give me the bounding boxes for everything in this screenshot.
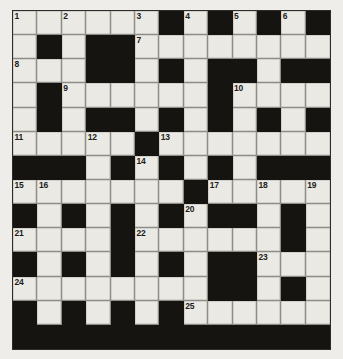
crossword-cell[interactable]: 4	[184, 11, 208, 35]
crossword-cell[interactable]	[184, 252, 208, 276]
crossword-cell[interactable]	[37, 132, 61, 156]
crossword-cell[interactable]	[13, 83, 37, 107]
crossword-cell[interactable]	[281, 35, 305, 59]
crossword-cell[interactable]	[233, 108, 257, 132]
crossword-cell[interactable]	[135, 277, 159, 301]
crossword-cell[interactable]: 11	[13, 132, 37, 156]
crossword-cell[interactable]	[135, 204, 159, 228]
crossword-cell[interactable]	[159, 228, 183, 252]
crossword-cell[interactable]: 15	[13, 180, 37, 204]
crossword-cell[interactable]	[62, 108, 86, 132]
crossword-cell[interactable]	[281, 108, 305, 132]
crossword-cell[interactable]	[208, 228, 232, 252]
crossword-cell[interactable]	[111, 180, 135, 204]
crossword-cell[interactable]	[37, 59, 61, 83]
crossword-cell[interactable]	[306, 301, 330, 325]
crossword-cell[interactable]	[13, 108, 37, 132]
crossword-cell[interactable]	[159, 277, 183, 301]
crossword-cell[interactable]	[233, 132, 257, 156]
crossword-cell[interactable]	[62, 59, 86, 83]
crossword-cell[interactable]: 8	[13, 59, 37, 83]
crossword-cell[interactable]	[37, 204, 61, 228]
crossword-cell[interactable]	[37, 228, 61, 252]
crossword-cell[interactable]: 20	[184, 204, 208, 228]
crossword-cell[interactable]: 18	[257, 180, 281, 204]
crossword-cell[interactable]	[135, 252, 159, 276]
crossword-cell[interactable]: 17	[208, 180, 232, 204]
crossword-cell[interactable]	[233, 156, 257, 180]
crossword-cell[interactable]	[184, 277, 208, 301]
crossword-cell[interactable]	[184, 35, 208, 59]
crossword-cell[interactable]	[62, 132, 86, 156]
crossword-cell[interactable]	[135, 59, 159, 83]
crossword-cell[interactable]	[159, 180, 183, 204]
crossword-cell[interactable]	[257, 132, 281, 156]
crossword-cell[interactable]	[281, 83, 305, 107]
crossword-cell[interactable]: 16	[37, 180, 61, 204]
crossword-cell[interactable]	[257, 83, 281, 107]
crossword-cell[interactable]	[111, 11, 135, 35]
crossword-cell[interactable]: 13	[159, 132, 183, 156]
crossword-cell[interactable]	[86, 277, 110, 301]
crossword-cell[interactable]: 12	[86, 132, 110, 156]
crossword-cell[interactable]	[281, 252, 305, 276]
crossword-cell[interactable]	[281, 301, 305, 325]
crossword-cell[interactable]: 3	[135, 11, 159, 35]
crossword-cell[interactable]	[306, 132, 330, 156]
crossword-cell[interactable]	[13, 35, 37, 59]
crossword-cell[interactable]: 21	[13, 228, 37, 252]
crossword-cell[interactable]	[306, 204, 330, 228]
crossword-cell[interactable]	[37, 301, 61, 325]
crossword-cell[interactable]: 22	[135, 228, 159, 252]
crossword-cell[interactable]: 2	[62, 11, 86, 35]
crossword-cell[interactable]: 5	[233, 11, 257, 35]
crossword-cell[interactable]	[184, 132, 208, 156]
crossword-cell[interactable]	[306, 35, 330, 59]
crossword-cell[interactable]	[135, 301, 159, 325]
crossword-cell[interactable]	[37, 11, 61, 35]
crossword-cell[interactable]	[257, 59, 281, 83]
crossword-cell[interactable]	[306, 277, 330, 301]
crossword-cell[interactable]	[233, 180, 257, 204]
crossword-cell[interactable]	[159, 83, 183, 107]
crossword-cell[interactable]	[111, 277, 135, 301]
crossword-cell[interactable]	[233, 35, 257, 59]
crossword-cell[interactable]	[86, 83, 110, 107]
crossword-cell[interactable]	[306, 252, 330, 276]
crossword-cell[interactable]	[233, 228, 257, 252]
crossword-cell[interactable]	[86, 228, 110, 252]
crossword-cell[interactable]	[257, 35, 281, 59]
crossword-cell[interactable]	[257, 204, 281, 228]
crossword-cell[interactable]	[306, 83, 330, 107]
crossword-cell[interactable]	[184, 108, 208, 132]
crossword-cell[interactable]	[62, 228, 86, 252]
crossword-grid[interactable]: 1234567891011121314151617181920212223242…	[12, 10, 331, 350]
crossword-cell[interactable]: 24	[13, 277, 37, 301]
crossword-cell[interactable]	[86, 180, 110, 204]
crossword-cell[interactable]: 10	[233, 83, 257, 107]
crossword-cell[interactable]	[281, 180, 305, 204]
crossword-cell[interactable]	[86, 156, 110, 180]
crossword-cell[interactable]	[135, 180, 159, 204]
crossword-cell[interactable]	[86, 204, 110, 228]
crossword-cell[interactable]	[208, 35, 232, 59]
crossword-cell[interactable]	[208, 132, 232, 156]
crossword-cell[interactable]	[257, 228, 281, 252]
crossword-cell[interactable]	[281, 132, 305, 156]
crossword-cell[interactable]	[37, 277, 61, 301]
crossword-cell[interactable]	[62, 180, 86, 204]
crossword-cell[interactable]: 14	[135, 156, 159, 180]
crossword-cell[interactable]	[257, 301, 281, 325]
crossword-cell[interactable]: 19	[306, 180, 330, 204]
crossword-cell[interactable]	[37, 252, 61, 276]
crossword-cell[interactable]	[111, 83, 135, 107]
crossword-cell[interactable]	[86, 11, 110, 35]
crossword-cell[interactable]	[184, 228, 208, 252]
crossword-cell[interactable]	[184, 156, 208, 180]
crossword-cell[interactable]: 7	[135, 35, 159, 59]
crossword-cell[interactable]	[86, 301, 110, 325]
crossword-cell[interactable]	[184, 59, 208, 83]
crossword-cell[interactable]: 6	[281, 11, 305, 35]
crossword-cell[interactable]	[135, 83, 159, 107]
crossword-cell[interactable]	[86, 252, 110, 276]
